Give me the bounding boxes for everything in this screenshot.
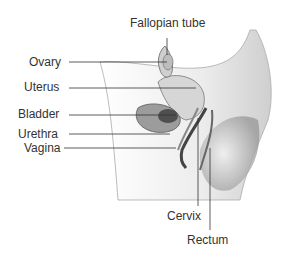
- label-urethra: Urethra: [18, 128, 58, 140]
- label-uterus: Uterus: [24, 81, 59, 93]
- label-ovary: Ovary: [29, 56, 61, 68]
- label-fallopian-tube: Fallopian tube: [130, 17, 205, 29]
- label-vagina: Vagina: [24, 142, 60, 154]
- label-bladder: Bladder: [18, 108, 59, 120]
- label-rectum: Rectum: [187, 234, 228, 246]
- label-cervix: Cervix: [167, 210, 201, 222]
